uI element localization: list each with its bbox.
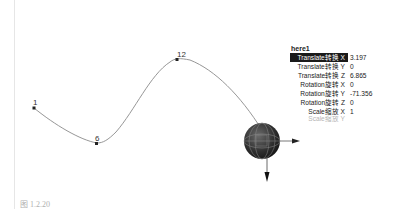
cv-point-6[interactable]: 6 (95, 134, 100, 145)
channel-value[interactable]: -71.356 (348, 89, 372, 98)
channel-label[interactable]: Translate转换 X (290, 53, 348, 62)
channel-row-translate-z[interactable]: Translate转换 Z 6.865 (290, 71, 402, 80)
channel-value[interactable]: 0 (348, 98, 354, 107)
channel-row-scale-y[interactable]: Scale缩放 Y (290, 116, 402, 122)
channel-label[interactable]: Scale缩放 X (290, 107, 348, 116)
channel-label[interactable]: Rotation旋转 X (290, 80, 348, 89)
channel-row-rotate-x[interactable]: Rotation旋转 X 0 (290, 80, 402, 89)
cv-point-label: 12 (177, 50, 186, 59)
channel-row-rotate-z[interactable]: Rotation旋转 Z 0 (290, 98, 402, 107)
x-axis-arrow-icon[interactable] (292, 139, 300, 144)
channel-label[interactable]: Rotation旋转 Z (290, 98, 348, 107)
motion-path-curve[interactable] (34, 59, 262, 143)
transform-manipulator[interactable] (244, 123, 300, 182)
figure-caption: 图 1.2.20 (20, 198, 50, 209)
channel-value[interactable]: 0 (348, 80, 354, 89)
node-name: here1 (290, 45, 402, 52)
channel-box: here1 Translate转换 X 3.197 Translate转换 Y … (290, 45, 402, 122)
cv-point-label: 6 (95, 134, 100, 143)
channel-label[interactable]: Rotation旋转 Y (290, 89, 348, 98)
y-axis-arrow-icon[interactable] (265, 172, 270, 182)
channel-value[interactable] (348, 116, 350, 122)
channel-row-translate-x[interactable]: Translate转换 X 3.197 (290, 53, 402, 62)
3d-viewport[interactable]: 1 6 12 here1 (0, 0, 408, 209)
channel-row-rotate-y[interactable]: Rotation旋转 Y -71.356 (290, 89, 402, 98)
cv-point-1[interactable]: 1 (33, 98, 39, 110)
channel-value[interactable]: 1 (348, 107, 354, 116)
channel-value[interactable]: 0 (348, 62, 354, 71)
channel-row-scale-x[interactable]: Scale缩放 X 1 (290, 107, 402, 116)
channel-value[interactable]: 6.865 (348, 71, 367, 80)
cv-point-label: 1 (33, 98, 38, 107)
channel-value[interactable]: 3.197 (348, 53, 367, 62)
channel-label[interactable]: Translate转换 Z (290, 71, 348, 80)
channel-label[interactable]: Translate转换 Y (290, 62, 348, 71)
channel-row-translate-y[interactable]: Translate转换 Y 0 (290, 62, 402, 71)
channel-label[interactable]: Scale缩放 Y (290, 116, 348, 122)
